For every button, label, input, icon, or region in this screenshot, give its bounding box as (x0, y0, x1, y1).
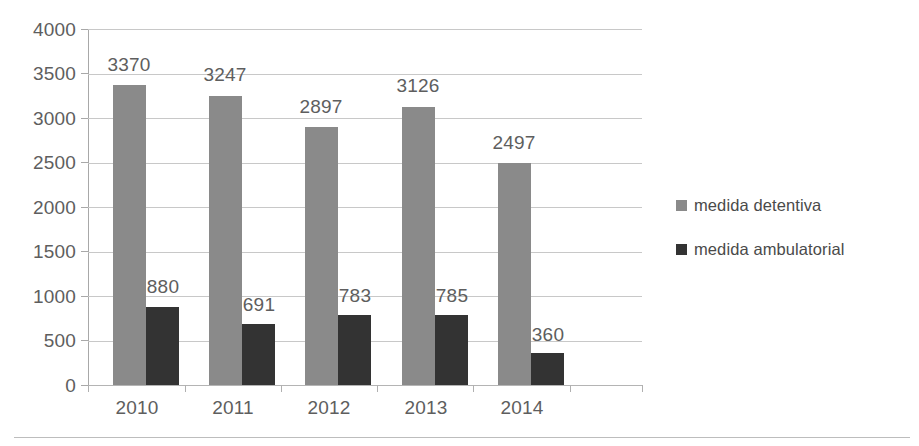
x-tick-mark (281, 385, 282, 392)
x-tick-mark (642, 385, 643, 392)
data-label-ambulatorial-2011: 691 (223, 295, 295, 314)
y-tick-label: 500 (4, 331, 76, 350)
bar-ambulatorial-2010 (146, 307, 179, 385)
chart-legend: medida detentiva medida ambulatorial (676, 190, 844, 278)
data-label-detentiva-2012: 2897 (285, 97, 357, 116)
bar-ambulatorial-2011 (242, 324, 275, 386)
bar-detentiva-2012 (305, 127, 338, 385)
data-label-detentiva-2013: 3126 (382, 76, 454, 95)
x-tick-label-2011: 2011 (185, 397, 281, 419)
data-label-ambulatorial-2014: 360 (512, 325, 584, 344)
gridline (88, 74, 642, 75)
y-axis-labels: 4000 3500 3000 2500 2000 1500 1000 500 0 (0, 0, 76, 446)
bar-ambulatorial-2013 (435, 315, 468, 385)
gridline (88, 118, 642, 119)
y-tick-label: 3500 (4, 64, 76, 83)
x-tick-label-2013: 2013 (378, 397, 474, 419)
data-label-detentiva-2010: 3370 (93, 55, 165, 74)
x-tick-mark (185, 385, 186, 392)
bar-detentiva-2010 (113, 85, 146, 385)
page-divider (14, 437, 910, 438)
data-label-ambulatorial-2012: 783 (319, 286, 391, 305)
x-tick-label-2012: 2012 (281, 397, 377, 419)
axis-baseline (88, 385, 642, 386)
x-tick-mark (473, 385, 474, 392)
y-tick-label: 1500 (4, 242, 76, 261)
data-label-detentiva-2011: 3247 (189, 65, 261, 84)
x-tick-label-2014: 2014 (474, 397, 570, 419)
data-label-ambulatorial-2013: 785 (416, 286, 488, 305)
y-tick-label: 3000 (4, 109, 76, 128)
gridline (88, 207, 642, 208)
bar-detentiva-2011 (209, 96, 242, 385)
gridline (88, 252, 642, 253)
y-tick-label: 2000 (4, 198, 76, 217)
gridline (88, 29, 642, 30)
y-tick-label: 0 (4, 376, 76, 395)
data-label-detentiva-2014: 2497 (478, 133, 550, 152)
bar-ambulatorial-2014 (531, 353, 564, 385)
x-tick-label-2010: 2010 (89, 397, 185, 419)
bar-ambulatorial-2012 (338, 315, 371, 385)
data-label-ambulatorial-2010: 880 (127, 277, 199, 296)
x-tick-mark (88, 385, 89, 392)
bar-detentiva-2014 (498, 163, 531, 385)
legend-label-detentiva: medida detentiva (694, 196, 821, 214)
legend-swatch-icon (676, 200, 687, 211)
bar-detentiva-2013 (402, 107, 435, 385)
x-tick-mark (377, 385, 378, 392)
x-tick-mark (570, 385, 571, 392)
legend-swatch-icon (676, 244, 687, 255)
legend-item-detentiva: medida detentiva (676, 190, 844, 220)
legend-label-ambulatorial: medida ambulatorial (694, 240, 844, 258)
legend-item-ambulatorial: medida ambulatorial (676, 234, 844, 264)
bar-chart: 4000 3500 3000 2500 2000 1500 1000 500 0 (0, 0, 919, 446)
gridline (88, 163, 642, 164)
y-tick-label: 1000 (4, 287, 76, 306)
y-tick-label: 2500 (4, 153, 76, 172)
y-tick-label: 4000 (4, 20, 76, 39)
